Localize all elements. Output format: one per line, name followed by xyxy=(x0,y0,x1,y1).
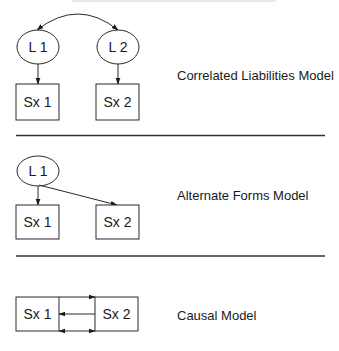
observed-node-sx2: Sx 2 xyxy=(96,84,139,120)
model-comparison-diagram: L 1 L 2 Sx 1 Sx 2 Correlated Liabilities… xyxy=(0,0,339,351)
latent-label-l2: L 2 xyxy=(109,39,128,55)
panel-alternate-forms: L 1 Sx 1 Sx 2 Alternate Forms Model xyxy=(16,156,309,239)
observed-node-sx2: Sx 2 xyxy=(95,297,138,331)
observed-node-sx1: Sx 1 xyxy=(16,297,59,331)
observed-label-sx2: Sx 2 xyxy=(103,94,131,110)
observed-label-sx1: Sx 1 xyxy=(23,306,51,322)
observed-node-sx2: Sx 2 xyxy=(96,205,139,239)
latent-node-l1: L 1 xyxy=(17,156,59,186)
path-arrow-l1-sx2 xyxy=(39,185,117,205)
correlation-arrow-l1-l2 xyxy=(37,14,118,30)
model-label-correlated-liabilities: Correlated Liabilities Model xyxy=(177,68,334,83)
observed-label-sx1: Sx 1 xyxy=(23,94,51,110)
model-label-alternate-forms: Alternate Forms Model xyxy=(177,188,309,203)
latent-node-l2: L 2 xyxy=(97,30,139,64)
observed-node-sx1: Sx 1 xyxy=(16,205,59,239)
model-label-causal: Causal Model xyxy=(177,308,257,323)
observed-node-sx1: Sx 1 xyxy=(16,84,59,120)
cropped-caption-remnant xyxy=(72,0,276,2)
panel-correlated-liabilities: L 1 L 2 Sx 1 Sx 2 Correlated Liabilities… xyxy=(16,14,334,120)
panel-causal: Sx 1 Sx 2 Causal Model xyxy=(16,297,257,331)
latent-node-l1: L 1 xyxy=(17,30,59,64)
observed-label-sx1: Sx 1 xyxy=(23,214,51,230)
latent-label-l1: L 1 xyxy=(29,39,48,55)
observed-label-sx2: Sx 2 xyxy=(102,306,130,322)
observed-label-sx2: Sx 2 xyxy=(103,214,131,230)
latent-label-l1: L 1 xyxy=(29,163,48,179)
